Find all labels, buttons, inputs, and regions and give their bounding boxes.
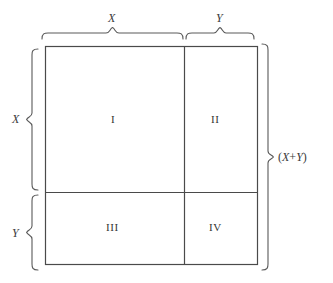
sum-close-paren: ) bbox=[303, 150, 307, 164]
region-label-i: I bbox=[111, 113, 115, 125]
left-label-y: Y bbox=[12, 226, 19, 241]
left-brace-x bbox=[27, 49, 38, 190]
left-brace-y bbox=[27, 195, 38, 270]
right-brace-sum bbox=[262, 44, 273, 270]
region-label-iv: IV bbox=[209, 221, 222, 233]
figure-container: X Y X Y (X+Y) I II III IV bbox=[0, 0, 333, 283]
sum-term-y: Y bbox=[296, 150, 303, 164]
region-label-ii: II bbox=[211, 113, 220, 125]
left-label-x: X bbox=[12, 112, 20, 127]
top-label-y: Y bbox=[216, 11, 223, 26]
top-label-x: X bbox=[108, 11, 116, 26]
top-brace-x bbox=[42, 28, 183, 39]
top-brace-y bbox=[186, 28, 254, 39]
right-label-sum: (X+Y) bbox=[278, 150, 307, 165]
region-label-iii: III bbox=[106, 221, 119, 233]
diagram-canvas bbox=[0, 0, 333, 283]
outer-square bbox=[46, 47, 258, 265]
